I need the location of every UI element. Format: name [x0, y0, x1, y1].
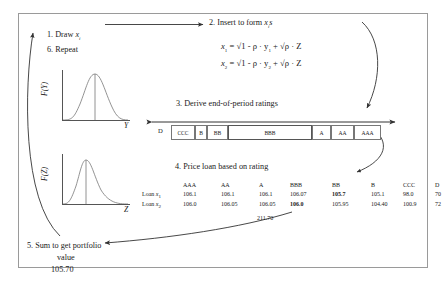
plot-fy-x-axis	[62, 120, 130, 121]
price-col-header-aa: AA	[221, 182, 230, 188]
rating-label-d-outside: D	[158, 128, 163, 135]
plot-fy-x-label: Y	[124, 122, 128, 130]
plot-fz-y-label: F(Z)	[41, 167, 49, 181]
rating-cell-b[interactable]: B	[195, 125, 207, 140]
price-r1-aaa: 106.1	[183, 191, 197, 197]
price-r1-a: 106.1	[259, 191, 273, 197]
price-col-header-a: A	[259, 182, 263, 188]
plot-fz-y-axis	[62, 154, 63, 204]
price-col-header-b: B	[371, 182, 375, 188]
price-r2-ccc: 100.9	[403, 201, 417, 207]
formula-2-tail: + √ρ · Z	[273, 58, 301, 68]
price-col-header-aaa: AAA	[183, 182, 196, 188]
price-row-1-label: Loan	[142, 191, 154, 197]
plot-curve-fy	[63, 74, 128, 120]
table-row: Loan x1	[142, 191, 161, 199]
formula-row-2: x2 = √1 - ρ · y2 + √ρ · Z	[221, 59, 301, 70]
arrow-step5-to-step1	[28, 33, 60, 236]
step-4-label: 4. Price loan based on rating	[175, 163, 268, 171]
price-table-sum: 211.70	[257, 215, 273, 221]
rating-cell-aa[interactable]: AA	[331, 125, 354, 140]
rating-cell-aaa[interactable]: AAA	[354, 125, 381, 140]
arrow-step2-to-step3	[362, 22, 378, 108]
step-2-tail: s	[269, 18, 272, 27]
price-r2-bbb: 106.0	[290, 201, 304, 207]
step-5-line3: 105.70	[51, 266, 74, 274]
plot-curve-fz	[63, 160, 128, 204]
diagram-canvas: F(Y) Y F(Z) Z 1. Draw xi 6. Repeat 2. In…	[0, 0, 445, 296]
formula-row-1: x1 = √1 - ρ · y1 + √ρ · Z	[221, 42, 301, 53]
step-5-line1: 5. Sum to get portfolio	[27, 242, 101, 250]
price-col-header-ccc: CCC	[403, 182, 415, 188]
price-r2-d: 72	[435, 201, 441, 207]
formula-2-rhs-sub: 2	[268, 65, 271, 70]
formula-1-tail: + √ρ · Z	[273, 41, 301, 51]
plot-fz-x-axis	[62, 204, 130, 205]
step-5-line2: value	[57, 254, 75, 262]
price-r2-aa: 106.05	[221, 201, 238, 207]
price-r1-bb: 105.7	[332, 191, 346, 197]
plot-fz-x-label: Z	[124, 206, 128, 214]
step-3-label: 3. Derive end-of-period ratings	[176, 100, 278, 108]
step-1-subscript: i	[79, 36, 80, 41]
rating-cell-ccc[interactable]: CCC	[171, 125, 195, 140]
price-r1-d: 70	[435, 191, 441, 197]
price-r2-b: 104.40	[371, 201, 388, 207]
price-col-header-bb: BB	[332, 182, 340, 188]
rating-cell-bb[interactable]: BB	[207, 125, 228, 140]
formula-1-rhs: = √1 - ρ · y	[229, 41, 268, 51]
step-2-label: 2. Insert to form xis	[209, 19, 272, 29]
formula-1-rhs-sub: 1	[268, 48, 271, 53]
step-1-text: 1. Draw	[47, 30, 73, 39]
price-r1-bbb: 106.07	[290, 191, 307, 197]
price-r1-aa: 106.1	[221, 191, 235, 197]
price-r2-a: 106.05	[259, 201, 276, 207]
step-6-label: 6. Repeat	[47, 46, 78, 54]
step-2-text: 2. Insert to form	[209, 18, 262, 27]
formula-2-rhs: = √1 - ρ · y	[229, 58, 268, 68]
price-col-header-d: D	[435, 182, 439, 188]
price-row-2-subscript: 2	[159, 204, 162, 209]
plot-fy-y-axis	[62, 70, 63, 120]
plot-fy-y-label: F(Y)	[41, 82, 49, 96]
price-row-2-label: Loan	[142, 201, 154, 207]
price-r1-ccc: 98.0	[403, 191, 414, 197]
table-row: Loan x2	[142, 201, 161, 209]
rating-cell-bbb[interactable]: BBB	[228, 125, 312, 140]
price-r2-aaa: 106.0	[183, 201, 197, 207]
price-r2-bb: 105.95	[332, 201, 349, 207]
price-row-1-subscript: 1	[159, 194, 162, 199]
price-r1-b: 105.1	[371, 191, 385, 197]
rating-cell-a[interactable]: A	[312, 125, 331, 140]
formula-2-lhs-sub: 2	[225, 65, 228, 70]
formula-1-lhs-sub: 1	[225, 48, 228, 53]
step-1-label: 1. Draw xi	[47, 31, 80, 41]
price-col-header-bbb: BBB	[290, 182, 302, 188]
